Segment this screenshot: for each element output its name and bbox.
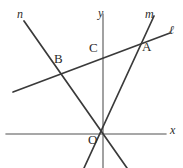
point-a-label: A (142, 40, 151, 53)
line-m-label: m (145, 8, 154, 20)
line-l-label: ℓ (169, 24, 174, 36)
y-axis-label: y (98, 7, 103, 19)
point-b-label: B (54, 52, 63, 65)
geometry-figure: n m ℓ y x A B C O (0, 0, 183, 168)
point-o-label: O (88, 133, 97, 146)
axes-group (6, 14, 166, 168)
point-c-label: C (89, 41, 98, 54)
x-axis-label: x (170, 124, 175, 136)
line-n-label: n (17, 8, 23, 20)
line-n-stroke (24, 21, 127, 168)
